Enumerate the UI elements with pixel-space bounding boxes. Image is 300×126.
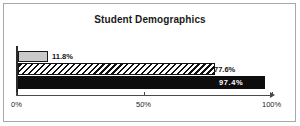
bar-label-series-3: 97.4%	[219, 78, 243, 87]
x-tick-100	[272, 92, 273, 96]
chart-container: Student Demographics 11.8% 77.6% 97.4% 0…	[0, 0, 300, 126]
x-tick-label-100: 100%	[262, 100, 281, 109]
chart-title: Student Demographics	[0, 14, 300, 25]
bar-label-series-1: 11.8%	[52, 52, 73, 61]
bar-series-1	[18, 51, 48, 62]
x-tick-label-50: 50%	[136, 100, 151, 109]
x-tick-0	[16, 92, 17, 96]
x-tick-50	[144, 92, 145, 96]
x-tick-label-0: 0%	[11, 100, 22, 109]
bar-label-series-2: 77.6%	[214, 65, 235, 74]
bar-series-2	[18, 63, 215, 75]
